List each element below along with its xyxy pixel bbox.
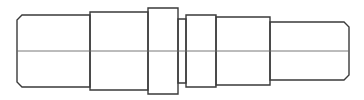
shaft-drawing	[0, 0, 364, 100]
